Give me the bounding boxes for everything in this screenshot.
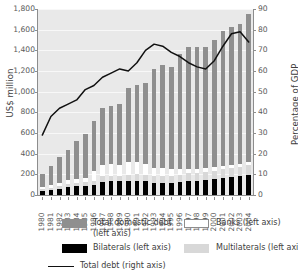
chart-legend: Total domestic debt (left axis) Banks (l… [0, 214, 298, 278]
y-tick-label-left: 1,000 [13, 88, 35, 96]
y-tick-label-right: 80 [258, 26, 268, 34]
x-tick-mark [137, 197, 138, 200]
x-tick-mark [232, 197, 233, 200]
y-tick-label-right: 10 [258, 170, 268, 178]
x-tick-mark [60, 197, 61, 200]
legend-label-bilaterals: Bilaterals (left axis) [93, 243, 171, 253]
y-tick-label-right: 30 [258, 129, 268, 137]
y-tick-label-right: 50 [258, 88, 268, 96]
x-tick-mark [223, 197, 224, 200]
x-tick-mark [42, 197, 43, 200]
y-tick-label-left: 1,600 [13, 26, 35, 34]
x-tick-mark [77, 197, 78, 200]
x-tick-mark [51, 197, 52, 200]
x-tick-mark [68, 197, 69, 200]
y-axis-title-right: Percentage of GDP [290, 65, 298, 145]
legend-label-banks: Banks (left axis) [216, 218, 281, 228]
x-tick-mark [94, 197, 95, 200]
axis-line-right [253, 9, 254, 195]
legend-label-total-debt: Total debt (right axis) [80, 261, 166, 271]
x-tick-mark [103, 197, 104, 200]
x-tick-mark [249, 197, 250, 200]
y-tick-label-right: 60 [258, 67, 268, 75]
legend-label-total-domestic-debt: Total domestic debt [93, 218, 172, 228]
x-tick-mark [197, 197, 198, 200]
legend-swatch-total-debt-line [48, 266, 74, 267]
x-tick-mark [180, 197, 181, 200]
legend-swatch-multilaterals [184, 244, 209, 253]
y-tick-label-right: 70 [258, 46, 268, 54]
y-tick-label-right: 0 [258, 191, 263, 199]
x-tick-mark [146, 197, 147, 200]
y-tick-label-left: 1,200 [13, 67, 35, 75]
x-tick-mark [85, 197, 86, 200]
x-tick-mark [240, 197, 241, 200]
y-tick-label-right: 20 [258, 150, 268, 158]
x-tick-mark [154, 197, 155, 200]
x-tick-mark [189, 197, 190, 200]
x-tick-mark [120, 197, 121, 200]
x-tick-mark [214, 197, 215, 200]
legend-swatch-total-domestic-debt [62, 219, 87, 228]
legend-label-total-domestic-debt-line2: (left axis) [93, 229, 131, 239]
x-tick-mark [128, 197, 129, 200]
x-tick-mark [163, 197, 164, 200]
legend-swatch-banks [184, 219, 209, 228]
legend-label-multilaterals: Multilaterals (left axis) [216, 243, 298, 253]
y-tick-label-right: 90 [258, 5, 268, 13]
y-tick-label-left: 600 [21, 129, 36, 137]
y-tick-label-left: 1,800 [13, 5, 35, 13]
y-tick-label-left: 400 [21, 150, 36, 158]
x-tick-mark [206, 197, 207, 200]
y-tick-label-right: 40 [258, 108, 268, 116]
y-tick-label-left: 1,400 [13, 46, 35, 54]
legend-swatch-bilaterals [62, 244, 87, 253]
y-tick-label-left: 200 [21, 170, 36, 178]
axis-line-bottom [37, 195, 254, 196]
chart-figure: US$ million Percentage of GDP 0200400600… [0, 0, 298, 278]
plot-area [38, 9, 253, 195]
x-tick-mark [171, 197, 172, 200]
total-debt-line [38, 9, 253, 195]
y-tick-label-left: 800 [21, 108, 36, 116]
x-tick-mark [111, 197, 112, 200]
